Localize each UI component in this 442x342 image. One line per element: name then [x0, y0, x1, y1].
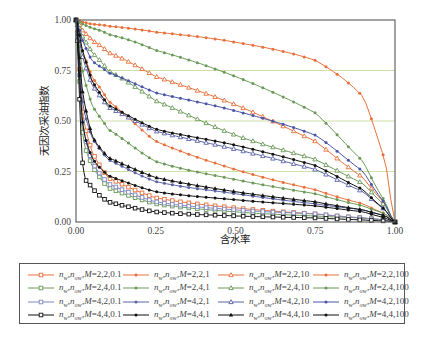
- legend-label: nw,now,M=2,2,100: [344, 269, 409, 281]
- legend-swatch-icon: [218, 310, 244, 320]
- legend-label: nw,now,M=2,4,10: [249, 282, 309, 294]
- legend-swatch-icon: [28, 310, 54, 320]
- legend-label: nw,now,M=2,2,1: [154, 269, 210, 281]
- legend-item: nw,now,M=2,4,1: [123, 281, 210, 295]
- x-axis-label: 含水率: [220, 233, 250, 245]
- legend-label: nw,now,M=4,4,0.1: [59, 309, 122, 321]
- legend-swatch-icon: [313, 283, 339, 293]
- x-tick-label: 0.75: [307, 226, 324, 236]
- legend-swatch-icon: [123, 297, 149, 307]
- legend-label: nw,now,M=2,2,10: [249, 269, 309, 281]
- legend-swatch-icon: [218, 283, 244, 293]
- gridlines: [76, 71, 395, 172]
- legend-label: nw,now,M=4,4,10: [249, 309, 309, 321]
- legend-label: nw,now,M=4,2,1: [154, 296, 210, 308]
- legend-label: nw,now,M=4,2,10: [249, 296, 309, 308]
- legend-label: nw,now,M=2,4,1: [154, 282, 210, 294]
- legend-item: nw,now,M=4,2,0.1: [28, 295, 122, 309]
- legend-swatch-icon: [123, 283, 149, 293]
- x-tick-label: 0.25: [147, 226, 164, 236]
- legend-item: nw,now,M=2,4,0.1: [28, 281, 122, 295]
- legend-item: nw,now,M=2,4,100: [313, 281, 409, 295]
- legend-item: nw,now,M=2,2,10: [218, 268, 309, 282]
- legend-item: nw,now,M=4,4,0.1: [28, 308, 122, 322]
- legend-label: nw,now,M=4,2,100: [344, 296, 409, 308]
- legend-label: nw,now,M=4,4,100: [344, 309, 409, 321]
- legend-swatch-icon: [123, 310, 149, 320]
- y-tick-label: 1.00: [54, 15, 71, 25]
- line-chart: 0.000.250.500.751.00 0.000.250.500.751.0…: [0, 0, 442, 262]
- legend-item: nw,now,M=2,2,1: [123, 268, 210, 282]
- legend-item: nw,now,M=2,2,0.1: [28, 268, 122, 282]
- legend-swatch-icon: [28, 297, 54, 307]
- legend: nw,now,M=2,2,0.1nw,now,M=2,2,1nw,now,M=2…: [19, 263, 405, 324]
- legend-item: nw,now,M=4,4,1: [123, 308, 210, 322]
- legend-item: nw,now,M=4,2,10: [218, 295, 309, 309]
- legend-item: nw,now,M=4,4,10: [218, 308, 309, 322]
- x-tick-label: 1.00: [387, 226, 404, 236]
- legend-label: nw,now,M=2,2,0.1: [59, 269, 122, 281]
- legend-label: nw,now,M=2,4,100: [344, 282, 409, 294]
- legend-label: nw,now,M=2,4,0.1: [59, 282, 122, 294]
- y-tick-label: 0.25: [54, 167, 71, 177]
- y-tick-label: 0.50: [54, 116, 71, 126]
- y-axis-ticks: 0.000.250.500.751.00: [54, 15, 71, 227]
- legend-swatch-icon: [313, 310, 339, 320]
- legend-swatch-icon: [218, 270, 244, 280]
- legend-swatch-icon: [313, 270, 339, 280]
- legend-label: nw,now,M=4,2,0.1: [59, 296, 122, 308]
- legend-swatch-icon: [218, 297, 244, 307]
- y-tick-label: 0.75: [54, 66, 71, 76]
- legend-item: nw,now,M=4,4,100: [313, 308, 409, 322]
- legend-label: nw,now,M=4,4,1: [154, 309, 210, 321]
- legend-swatch-icon: [123, 270, 149, 280]
- legend-swatch-icon: [313, 297, 339, 307]
- legend-item: nw,now,M=4,2,100: [313, 295, 409, 309]
- legend-item: nw,now,M=2,4,10: [218, 281, 309, 295]
- y-axis-label: 无因次采油指数: [38, 85, 50, 156]
- legend-swatch-icon: [28, 283, 54, 293]
- legend-item: nw,now,M=4,2,1: [123, 295, 210, 309]
- legend-swatch-icon: [28, 270, 54, 280]
- x-tick-label: 0.00: [68, 226, 85, 236]
- legend-item: nw,now,M=2,2,100: [313, 268, 409, 282]
